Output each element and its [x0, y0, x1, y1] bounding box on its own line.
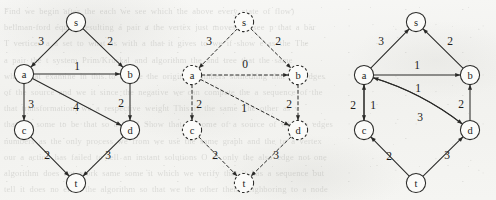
edge-a-to-d: 4	[32, 78, 121, 125]
node-c: c	[182, 120, 201, 139]
node-t: t	[66, 173, 85, 192]
arrow-head-icon	[283, 73, 288, 77]
edge-weight-label: 1	[74, 60, 80, 72]
arrow-head-icon	[251, 171, 256, 176]
edge-weight-label: 2	[286, 98, 292, 110]
edge-d-to-t: 3	[251, 137, 291, 177]
graph-1: 32134223sabcdt	[14, 12, 139, 192]
node-label: d	[467, 125, 473, 136]
arrow-head-icon	[362, 115, 366, 120]
edge-weight-label: 2	[350, 99, 356, 111]
edge-b-to-d: 2	[286, 85, 300, 121]
edge-s-to-a: 3	[31, 29, 69, 67]
edge-a-to-c: 2	[190, 85, 202, 121]
node-c: c	[14, 120, 33, 139]
edge-a-to-d: 1	[201, 79, 290, 125]
edge-c-to-t: 2	[31, 137, 70, 176]
node-b: b	[460, 65, 479, 84]
edge-weight-label: 2	[107, 35, 113, 47]
node-label: c	[22, 125, 27, 136]
arrow-head-icon	[296, 115, 300, 120]
edge-path	[423, 29, 463, 69]
edge-d-to-t: 3	[83, 137, 123, 177]
node-label: s	[242, 17, 246, 28]
node-label: a	[362, 70, 367, 81]
node-a: a	[354, 65, 373, 84]
edge-b-to-d: 2	[118, 84, 132, 121]
edge-path	[83, 29, 123, 68]
edge-d-to-b: 2	[458, 85, 472, 121]
arrow-head-icon	[468, 85, 472, 90]
arrow-head-icon	[284, 121, 290, 125]
node-label: b	[467, 70, 472, 81]
node-label: s	[74, 17, 78, 28]
edge-weight-label: 2	[275, 35, 281, 47]
node-label: c	[362, 125, 367, 136]
figure-root: Find we begin after the each we see whic…	[0, 0, 496, 200]
edge-weight-label: 2	[118, 97, 124, 109]
edge-b-to-s: 2	[423, 29, 463, 69]
edge-path	[423, 137, 463, 177]
node-s: s	[66, 12, 85, 31]
edge-weight-label: 4	[73, 101, 79, 113]
edge-weight-label: 1	[370, 99, 376, 111]
node-t: t	[234, 173, 253, 192]
arrow-head-icon	[115, 72, 120, 76]
edge-weight-label: 3	[444, 149, 450, 161]
node-label: b	[295, 70, 300, 81]
node-label: d	[127, 125, 133, 136]
edge-weight-label: 1	[415, 82, 421, 94]
edge-a-to-c: 3	[22, 84, 34, 121]
node-t: t	[406, 173, 425, 192]
edge-s-to-a: 3	[199, 29, 238, 68]
arrow-head-icon	[22, 115, 26, 120]
edge-path	[251, 137, 291, 177]
arrow-head-icon	[286, 63, 291, 68]
edge-weight-label: 2	[44, 149, 50, 161]
node-label: s	[414, 17, 418, 28]
edge-path	[371, 29, 410, 68]
graph-figure-svg: 32134223sabcdt32021223sabcdt3211321223sa…	[0, 0, 496, 200]
edge-weight-label: 2	[447, 35, 453, 47]
graph-2: 32021223sabcdt	[182, 12, 307, 192]
edge-path	[31, 137, 70, 176]
node-label: t	[415, 178, 418, 189]
edge-a-to-b: 0	[202, 58, 289, 77]
edge-weight-label: 3	[417, 111, 423, 123]
node-label: c	[190, 125, 195, 136]
arrow-head-icon	[190, 115, 194, 120]
edge-a-to-b: 1	[374, 59, 461, 77]
edge-path	[199, 137, 238, 176]
edge-path	[251, 29, 291, 69]
edge-path	[199, 29, 238, 68]
node-label: a	[22, 69, 27, 80]
edge-weight-label: 2	[386, 150, 392, 162]
node-d: d	[460, 120, 479, 139]
edge-a-to-c: 1	[362, 85, 376, 121]
edge-weight-label: 3	[105, 149, 111, 161]
edge-path	[83, 137, 123, 177]
node-d: d	[288, 120, 307, 139]
graph-3: 3211321223sabcdt	[350, 12, 479, 192]
node-label: d	[295, 125, 301, 136]
edge-weight-label: 1	[241, 102, 247, 114]
edge-weight-label: 3	[206, 35, 212, 47]
arrow-head-icon	[128, 115, 132, 120]
node-s: s	[406, 12, 425, 31]
edge-a-to-b: 1	[34, 60, 121, 76]
edge-weight-label: 3	[28, 98, 34, 110]
node-s: s	[234, 12, 253, 31]
arrow-head-icon	[455, 73, 460, 77]
node-label: t	[75, 178, 78, 189]
edge-s-to-b: 2	[83, 29, 123, 68]
edge-t-to-c: 2	[371, 137, 410, 176]
node-a: a	[182, 65, 201, 84]
node-c: c	[354, 120, 373, 139]
edge-weight-label: 3	[38, 35, 44, 47]
node-d: d	[120, 120, 139, 139]
edge-c-to-t: 2	[199, 137, 238, 176]
node-b: b	[120, 64, 139, 83]
node-b: b	[288, 65, 307, 84]
edge-weight-label: 2	[458, 98, 464, 110]
arrow-head-icon	[116, 121, 122, 125]
